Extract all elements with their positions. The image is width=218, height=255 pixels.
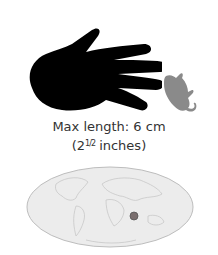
inches-suffix: inches) bbox=[99, 138, 146, 153]
range-marker-icon bbox=[130, 212, 138, 220]
max-length-label: Max length: 6 cm bbox=[0, 119, 218, 134]
animal-silhouette-icon bbox=[160, 70, 198, 114]
inches-prefix: (2 bbox=[72, 138, 85, 153]
inches-label: (21/2 inches) bbox=[0, 138, 218, 153]
world-map bbox=[26, 166, 194, 248]
hand-silhouette-icon bbox=[22, 26, 162, 116]
inches-fraction: 1/2 bbox=[85, 139, 95, 148]
